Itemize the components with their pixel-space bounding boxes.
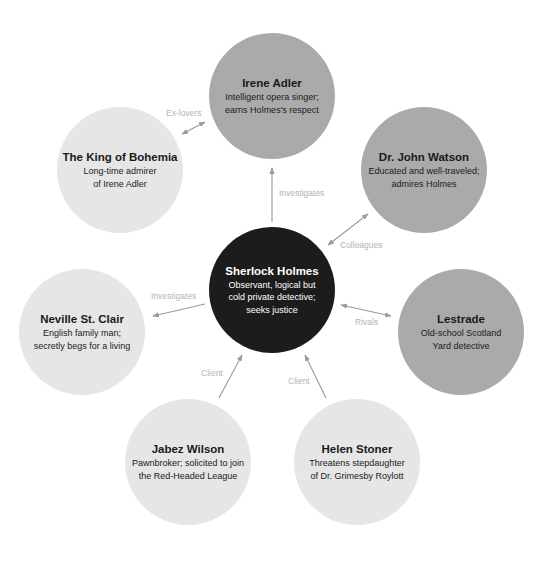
edge-arrow [182, 122, 205, 134]
edge-label-investigates-irene: Investigates [279, 188, 324, 198]
edge-arrow [341, 305, 391, 316]
node-lestrade: Lestrade Old-school Scotland Yard detect… [398, 269, 524, 395]
node-description: Pawnbroker; solicited to join the Red-He… [132, 457, 244, 482]
node-helen-stoner: Helen Stoner Threatens stepdaughter of D… [294, 399, 420, 525]
edge-label-investigates-neville: Investigates [151, 291, 196, 301]
node-title: Sherlock Holmes [225, 264, 318, 278]
node-description: English family man; secretly begs for a … [34, 327, 131, 352]
node-john-watson: Dr. John Watson Educated and well-travel… [361, 107, 487, 233]
edge-label-client-helen: Client [288, 376, 310, 386]
node-description: Old-school Scotland Yard detective [421, 327, 502, 352]
node-description: Long-time admirer of Irene Adler [83, 165, 156, 190]
node-title: Irene Adler [242, 76, 302, 90]
node-sherlock-holmes: Sherlock Holmes Observant, logical but c… [209, 227, 335, 353]
node-description: Intelligent opera singer; earns Holmes's… [225, 91, 319, 116]
edge-label-ex-lovers: Ex-lovers [166, 108, 201, 118]
node-description: Observant, logical but cold private dete… [228, 279, 315, 317]
node-irene-adler: Irene Adler Intelligent opera singer; ea… [209, 33, 335, 159]
node-description: Threatens stepdaughter of Dr. Grimesby R… [309, 457, 405, 482]
edge-label-colleagues: Colleagues [340, 240, 383, 250]
node-title: Helen Stoner [322, 442, 393, 456]
node-title: The King of Bohemia [63, 150, 178, 164]
node-king-of-bohemia: The King of Bohemia Long-time admirer of… [57, 107, 183, 233]
edge-arrow [153, 304, 205, 316]
node-title: Jabez Wilson [152, 442, 225, 456]
node-title: Neville St. Clair [40, 312, 124, 326]
node-title: Dr. John Watson [379, 150, 469, 164]
node-description: Educated and well-traveled; admires Holm… [368, 165, 479, 190]
character-relationship-diagram: Sherlock Holmes Observant, logical but c… [0, 0, 547, 570]
edge-label-rivals: Rivals [355, 317, 378, 327]
node-jabez-wilson: Jabez Wilson Pawnbroker; solicited to jo… [125, 399, 251, 525]
edge-label-client-jabez: Client [201, 368, 223, 378]
node-title: Lestrade [437, 312, 485, 326]
node-neville-st-clair: Neville St. Clair English family man; se… [19, 269, 145, 395]
